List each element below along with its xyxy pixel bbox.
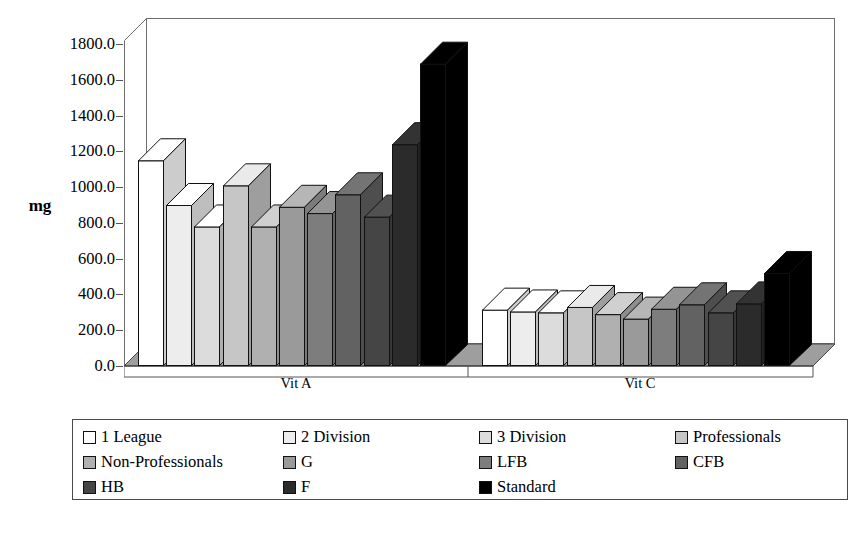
legend-swatch-icon bbox=[675, 431, 688, 444]
legend-label: Non-Professionals bbox=[101, 454, 223, 471]
legend-item-f[interactable]: F bbox=[283, 479, 479, 496]
y-axis-tick-mark bbox=[116, 259, 123, 260]
legend-swatch-icon bbox=[283, 431, 296, 444]
bar-standard-vit-a bbox=[420, 18, 446, 366]
y-axis-tick-label: 200.0 bbox=[29, 322, 115, 339]
bar-3-division-vit-c bbox=[538, 18, 564, 366]
legend-swatch-icon bbox=[83, 456, 96, 469]
legend-label: LFB bbox=[497, 454, 527, 471]
bars-layer bbox=[124, 18, 836, 378]
legend-swatch-icon bbox=[283, 481, 296, 494]
y-axis-tick-label: 1200.0 bbox=[29, 143, 115, 160]
legend-item-3-division[interactable]: 3 Division bbox=[479, 429, 675, 446]
bar-hb-vit-c bbox=[708, 18, 734, 366]
bar-3-division-vit-a bbox=[194, 18, 220, 366]
bar-2-division-vit-a bbox=[166, 18, 192, 366]
y-axis-tick-label: 800.0 bbox=[29, 215, 115, 232]
bar-cfb-vit-a bbox=[335, 18, 361, 366]
bar-hb-vit-a bbox=[364, 18, 390, 366]
bar-standard-vit-c bbox=[764, 18, 790, 366]
legend-item-lfb[interactable]: LFB bbox=[479, 454, 675, 471]
legend-label: HB bbox=[101, 479, 124, 496]
x-axis-label-vit-c: Vit C bbox=[468, 375, 812, 392]
legend-item-professionals[interactable]: Professionals bbox=[675, 429, 843, 446]
bar-cfb-vit-c bbox=[679, 18, 705, 366]
legend: 1 League2 Division3 DivisionProfessional… bbox=[72, 419, 848, 500]
y-axis-tick-mark bbox=[116, 187, 123, 188]
y-axis-tick-label: 1800.0 bbox=[29, 36, 115, 53]
y-axis-tick-mark bbox=[116, 80, 123, 81]
legend-item-cfb[interactable]: CFB bbox=[675, 454, 843, 471]
y-axis-tick-label: 400.0 bbox=[29, 286, 115, 303]
legend-label: 2 Division bbox=[301, 429, 370, 446]
bar-lfb-vit-c bbox=[651, 18, 677, 366]
bar-lfb-vit-a bbox=[307, 18, 333, 366]
y-axis-tick-label: 1000.0 bbox=[29, 179, 115, 196]
bar-g-vit-c bbox=[623, 18, 649, 366]
legend-label: 3 Division bbox=[497, 429, 566, 446]
bar-non-professionals-vit-a bbox=[251, 18, 277, 366]
bar-f-vit-a bbox=[392, 18, 418, 366]
legend-item-non-professionals[interactable]: Non-Professionals bbox=[83, 454, 283, 471]
bar-shape bbox=[764, 18, 812, 366]
legend-swatch-icon bbox=[83, 481, 96, 494]
bar-shape bbox=[420, 18, 468, 366]
legend-label: 1 League bbox=[101, 429, 162, 446]
bar-1-league-vit-a bbox=[138, 18, 164, 366]
y-axis-tick-mark bbox=[116, 44, 123, 45]
legend-label: G bbox=[301, 454, 313, 471]
x-axis-label-vit-a: Vit A bbox=[124, 375, 468, 392]
bar-2-division-vit-c bbox=[510, 18, 536, 366]
legend-label: Standard bbox=[497, 479, 556, 496]
legend-item-1-league[interactable]: 1 League bbox=[83, 429, 283, 446]
legend-item-hb[interactable]: HB bbox=[83, 479, 283, 496]
y-axis-tick-label: 1600.0 bbox=[29, 72, 115, 89]
legend-item-standard[interactable]: Standard bbox=[479, 479, 675, 496]
legend-swatch-icon bbox=[479, 456, 492, 469]
bar-f-vit-c bbox=[736, 18, 762, 366]
bar-g-vit-a bbox=[279, 18, 305, 366]
y-axis-tick-mark bbox=[116, 366, 123, 367]
legend-label: CFB bbox=[693, 454, 724, 471]
bar-professionals-vit-c bbox=[567, 18, 593, 366]
legend-swatch-icon bbox=[283, 456, 296, 469]
y-axis-tick-mark bbox=[116, 330, 123, 331]
legend-swatch-icon bbox=[675, 456, 688, 469]
y-axis-tick-label: 1400.0 bbox=[29, 107, 115, 124]
legend-label: Professionals bbox=[693, 429, 781, 446]
y-axis-tick-mark bbox=[116, 151, 123, 152]
y-axis-tick-mark bbox=[116, 116, 123, 117]
y-axis-tick-mark bbox=[116, 294, 123, 295]
legend-label: F bbox=[301, 479, 310, 496]
legend-swatch-icon bbox=[83, 431, 96, 444]
y-axis-tick-label: 0.0 bbox=[29, 358, 115, 375]
legend-item-2-division[interactable]: 2 Division bbox=[283, 429, 479, 446]
bar-non-professionals-vit-c bbox=[595, 18, 621, 366]
plot-area bbox=[124, 18, 836, 378]
legend-swatch-icon bbox=[479, 481, 492, 494]
bar-professionals-vit-a bbox=[223, 18, 249, 366]
legend-item-g[interactable]: G bbox=[283, 454, 479, 471]
y-axis-tick-label: 600.0 bbox=[29, 250, 115, 267]
bar-1-league-vit-c bbox=[482, 18, 508, 366]
chart-container: mg 0.0200.0400.0600.0800.01000.01200.014… bbox=[0, 0, 868, 537]
legend-swatch-icon bbox=[479, 431, 492, 444]
y-axis-tick-mark bbox=[116, 223, 123, 224]
